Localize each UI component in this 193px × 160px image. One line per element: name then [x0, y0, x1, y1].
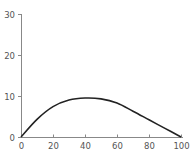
x-tick-label: 40: [80, 141, 91, 151]
x-tick-label: 60: [112, 141, 123, 151]
line-chart: 0102030020406080100: [0, 0, 193, 160]
data-line: [21, 98, 181, 137]
x-tick-label: 20: [48, 141, 59, 151]
y-tick-label: 10: [4, 92, 15, 102]
x-tick-label: 100: [173, 141, 189, 151]
axes: [18, 14, 183, 138]
y-tick-label: 30: [4, 10, 15, 20]
x-tick-label: 80: [144, 141, 155, 151]
y-tick-label: 20: [4, 51, 15, 61]
tick-labels: 0102030020406080100: [4, 10, 189, 152]
y-tick-label: 0: [10, 133, 15, 143]
x-tick-label: 0: [19, 141, 24, 151]
